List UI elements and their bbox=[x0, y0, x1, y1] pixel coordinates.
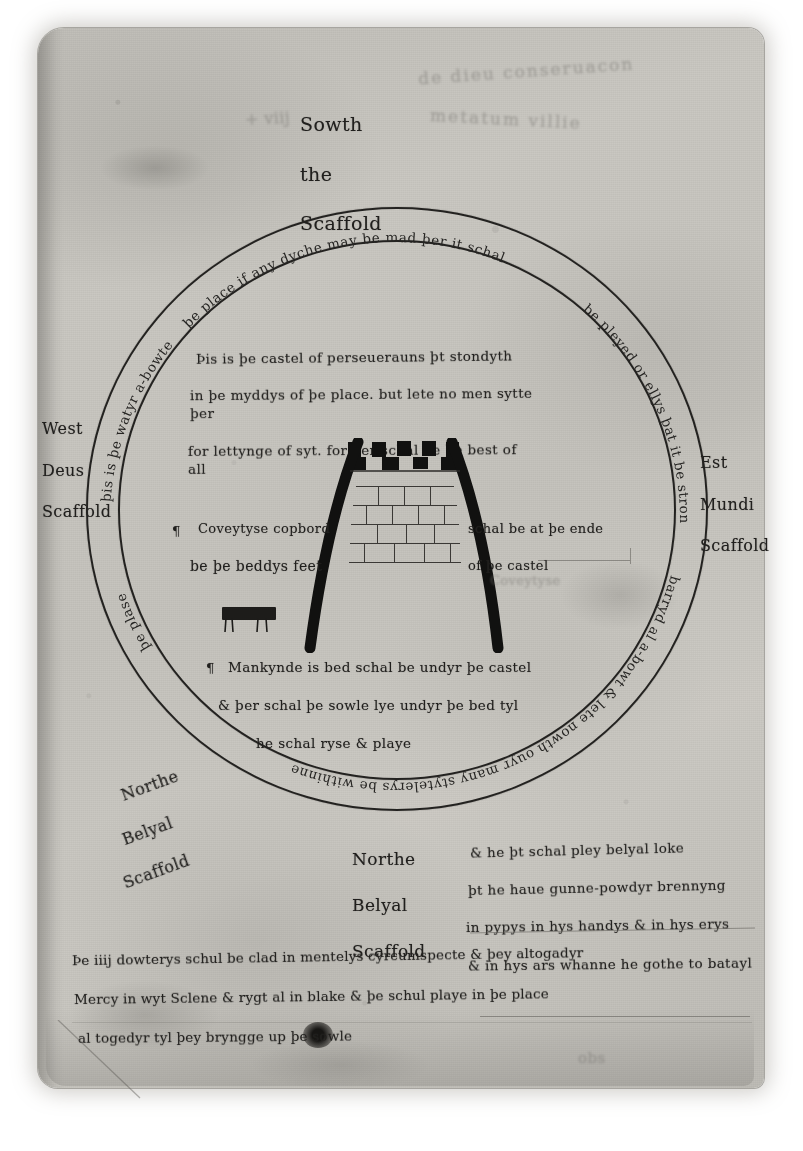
note-mankynde-bed: Mankynde is bed schal be undyr þe castel… bbox=[228, 658, 568, 713]
label-east-line3: Scaffold bbox=[700, 535, 770, 557]
masonry-joint-a2 bbox=[404, 486, 405, 505]
manuscript-photograph: + viij de dieu conseruacon metatum villi… bbox=[0, 0, 803, 1151]
masonry-joint-b4 bbox=[444, 505, 445, 524]
marginalia-top-left: + viij bbox=[244, 107, 290, 131]
paragraph-mark-left: ¶ bbox=[172, 523, 181, 541]
note-coveytyse-copbord: Coveytyse copbord be þe beddys feet bbox=[198, 520, 368, 556]
masonry-joint-d4 bbox=[450, 543, 451, 562]
masonry-joint-c1 bbox=[377, 524, 378, 543]
masonry-joint-c2 bbox=[406, 524, 407, 543]
ruling-line-right bbox=[538, 560, 630, 561]
marginalia-bottom-right: obs bbox=[578, 1048, 606, 1068]
note-castle-line2: in þe myddys of þe place. but lete no me… bbox=[190, 384, 540, 423]
note-bed-line3: he schal ryse & playe bbox=[256, 734, 596, 752]
stain-upper-left bbox=[100, 145, 210, 191]
note-coveytyse-line1: Coveytyse copbord bbox=[198, 520, 368, 538]
label-south-scaffold: Sowth the Scaffold bbox=[300, 112, 382, 189]
label-east-line1: Est bbox=[700, 452, 770, 474]
masonry-joint-c3 bbox=[434, 524, 435, 543]
label-east-line2: Mundi bbox=[700, 494, 770, 516]
note-castle-end-line1: schal be at þe ende bbox=[468, 520, 658, 538]
note-castle-description: Þis is þe castel of perseuerauns þt ston… bbox=[196, 348, 546, 439]
label-north-line2: Belyal bbox=[352, 894, 426, 917]
masonry-row-2 bbox=[353, 505, 457, 525]
stain-bottom-center bbox=[250, 1040, 430, 1090]
masonry-joint-b2 bbox=[392, 505, 393, 524]
note-belyal-line2: þt he haue gunne-powdyr brennyng bbox=[468, 875, 768, 899]
note-bed-line2: & þer schal þe sowle lye undyr þe bed ty… bbox=[218, 696, 558, 714]
note-castle-line1: Þis is þe castel of perseuerauns þt ston… bbox=[196, 346, 546, 368]
label-south-line2: the bbox=[300, 162, 382, 188]
masonry-joint-d3 bbox=[424, 543, 425, 562]
ruling-line-right-vert bbox=[630, 548, 631, 564]
bed-legs bbox=[218, 618, 284, 640]
erased-text-right: Coveytyse bbox=[490, 572, 561, 590]
masonry-joint-d2 bbox=[394, 543, 395, 562]
masonry-joint-b3 bbox=[418, 505, 419, 524]
masonry-row-5 bbox=[349, 562, 461, 582]
bottom-line1: Þe iiij dowterys schul be clad in mentel… bbox=[72, 941, 742, 970]
note-bed-line1: Mankynde is bed schal be undyr þe castel bbox=[228, 658, 568, 676]
bottom-paragraph: Þe iiij dowterys schul be clad in mentel… bbox=[72, 946, 742, 1001]
masonry-joint-a1 bbox=[378, 486, 379, 505]
note-belyal-line1: & he þt schal pley belyal loke bbox=[470, 836, 770, 862]
note-coveytyse-line2: be þe beddys feet bbox=[190, 557, 360, 576]
label-east-scaffold: Est Mundi Scaffold bbox=[700, 452, 770, 517]
leaf-corner-crease bbox=[40, 1020, 180, 1110]
masonry-joint-a3 bbox=[430, 486, 431, 505]
paragraph-mark-bed: ¶ bbox=[206, 660, 215, 678]
label-south-line1: Sowth bbox=[300, 112, 382, 138]
label-north-scaffold: Northe Belyal Scaffold bbox=[352, 848, 426, 917]
note-belyal-gunpowder: & he þt schal pley belyal loke þt he hau… bbox=[470, 840, 770, 913]
ruling-line-bottom bbox=[480, 1016, 750, 1017]
label-north-line1: Northe bbox=[352, 848, 426, 871]
